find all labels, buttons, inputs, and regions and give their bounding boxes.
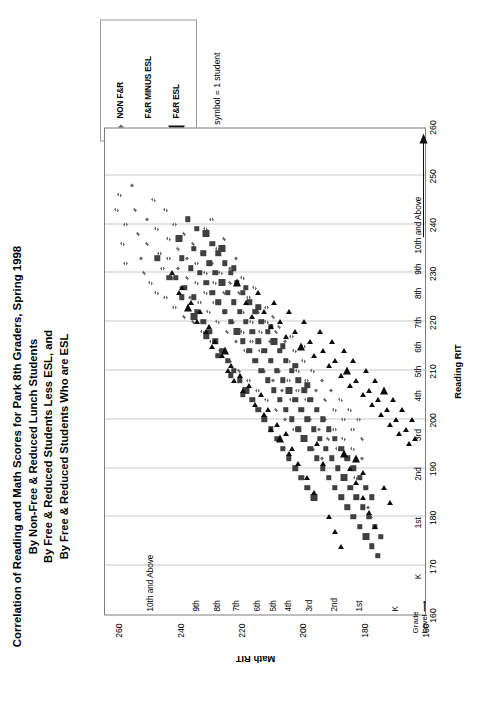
data-point <box>293 388 297 392</box>
data-point <box>222 309 227 314</box>
data-point <box>121 222 125 226</box>
data-point <box>360 392 366 397</box>
data-point <box>314 406 319 411</box>
y-tick-label: 200 <box>298 623 308 637</box>
data-point <box>164 256 168 260</box>
data-point <box>249 328 254 333</box>
data-point <box>332 436 337 441</box>
data-point <box>378 411 384 416</box>
data-point <box>320 460 326 465</box>
data-point <box>235 290 239 294</box>
data-point <box>343 366 351 374</box>
data-point <box>143 241 147 245</box>
data-point <box>200 250 205 255</box>
data-point <box>249 397 254 402</box>
data-point <box>204 309 208 313</box>
data-point <box>369 494 374 499</box>
data-point <box>387 499 393 504</box>
x-tick-label: 170 <box>428 559 438 573</box>
data-point <box>262 305 266 309</box>
data-point <box>321 397 325 401</box>
data-point <box>161 207 165 211</box>
data-point <box>175 235 182 242</box>
data-point <box>252 402 258 407</box>
data-point <box>363 368 369 373</box>
data-point <box>318 378 322 382</box>
data-point <box>353 377 359 382</box>
data-point <box>347 382 353 387</box>
data-point <box>255 289 261 294</box>
data-point <box>274 367 279 372</box>
data-point <box>262 348 267 353</box>
data-point <box>210 300 214 304</box>
data-point <box>360 494 366 499</box>
data-point <box>281 417 285 421</box>
data-point <box>311 426 316 431</box>
data-point <box>189 241 193 245</box>
data-point <box>295 377 300 382</box>
y-grade-label: 6th <box>253 600 262 611</box>
data-point <box>179 294 184 299</box>
x-tick-label: 180 <box>428 510 438 524</box>
data-point <box>246 382 252 387</box>
data-point <box>399 407 405 412</box>
data-point <box>354 494 359 499</box>
data-point <box>121 261 125 265</box>
data-point <box>301 435 308 442</box>
data-point <box>250 285 254 289</box>
data-point <box>311 490 317 495</box>
data-point <box>253 358 258 363</box>
data-point <box>360 504 365 509</box>
data-point <box>333 446 337 450</box>
data-point <box>348 427 352 431</box>
data-point <box>233 278 241 286</box>
data-point <box>317 436 322 441</box>
data-point <box>283 358 288 363</box>
y-tick-label: 220 <box>237 623 247 637</box>
data-point <box>219 353 225 358</box>
x-tick-label: 220 <box>428 315 438 329</box>
data-point <box>225 289 230 294</box>
chart-title-line-4: By Free & Reduced Students Who are ESL <box>57 211 73 681</box>
data-point <box>170 222 174 226</box>
data-point <box>332 358 338 363</box>
data-point <box>262 416 267 421</box>
data-point <box>174 266 178 270</box>
data-point <box>335 465 340 470</box>
chart-title-line-1: Correlation of Reading and Math Scores f… <box>10 211 26 681</box>
data-point <box>390 397 396 402</box>
data-point <box>297 342 305 350</box>
data-point <box>192 280 196 284</box>
data-point <box>265 377 270 382</box>
data-point <box>357 475 362 480</box>
data-point <box>261 411 267 416</box>
data-point <box>228 363 234 368</box>
data-point <box>216 299 221 304</box>
data-point <box>198 329 202 333</box>
data-point <box>329 455 334 460</box>
data-point <box>197 270 202 275</box>
data-point <box>339 436 343 440</box>
data-point <box>240 387 246 392</box>
data-point <box>283 406 288 411</box>
data-point <box>225 358 230 363</box>
data-point <box>232 339 236 343</box>
data-point <box>286 386 293 393</box>
y-tick-label: 240 <box>176 623 186 637</box>
data-point <box>338 494 343 499</box>
data-point <box>305 382 310 387</box>
data-point <box>200 319 205 324</box>
data-point <box>326 514 332 519</box>
x-axis-tick-labels: 160170180190200210220230240250260 <box>428 127 442 615</box>
data-point <box>241 348 245 352</box>
data-point <box>174 246 178 250</box>
data-point <box>366 387 372 392</box>
data-point <box>231 377 237 382</box>
x-tick-label: 230 <box>428 266 438 280</box>
y-grade-label: 7th <box>231 600 240 611</box>
data-point <box>243 319 248 324</box>
gridline <box>105 515 425 516</box>
chart-legend: NON F&R F&R MINUS ESL F&R ESL <box>100 19 197 141</box>
data-point <box>226 266 230 270</box>
data-point <box>185 216 190 221</box>
